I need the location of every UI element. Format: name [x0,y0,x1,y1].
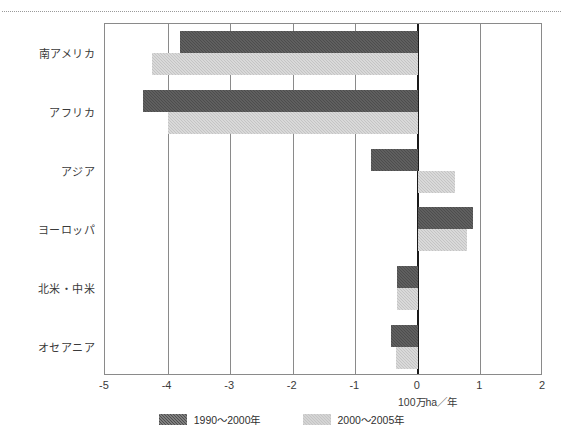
bar [396,347,418,369]
bar [418,207,473,229]
dotted-divider [2,11,561,12]
bar [397,288,418,310]
chart-figure: 100万ha／年 1990〜2000年 2000〜2005年 南アメリカアフリカ… [0,0,563,434]
bar [168,112,418,134]
category-label-1: アフリカ [49,104,95,120]
legend-swatch-1990-2000 [159,414,187,425]
category-label-4: 北米・中米 [38,280,96,296]
gridline--4 [168,24,169,374]
chart-legend: 1990〜2000年 2000〜2005年 [0,412,563,427]
bar [397,266,418,288]
x-tick-label-0: 0 [402,379,432,391]
category-label-5: オセアニア [38,339,96,355]
bar [152,53,418,75]
x-tick-label--3: -3 [214,379,244,391]
bar [391,325,418,347]
legend-swatch-2000-2005 [303,414,331,425]
bar [418,229,467,251]
x-axis-title: 100万ha／年 [398,394,457,409]
bar [371,149,418,171]
bar [180,31,418,53]
x-tick-label-2: 2 [527,379,557,391]
category-label-3: ヨーロッパ [38,221,96,237]
legend-item: 1990〜2000年 [159,412,261,427]
figure-caption [0,0,563,5]
gridline--1 [355,24,356,374]
bar [143,90,418,112]
category-label-0: 南アメリカ [39,45,96,61]
zero-axis-line [417,24,419,374]
bar [418,171,456,193]
x-tick-label--4: -4 [152,379,182,391]
x-tick-label--2: -2 [277,379,307,391]
legend-label: 1990〜2000年 [194,412,261,427]
x-tick-label--5: -5 [89,379,119,391]
x-tick-label--1: -1 [339,379,369,391]
gridline--3 [230,24,231,374]
legend-item: 2000〜2005年 [303,412,405,427]
x-tick-label-1: 1 [464,379,494,391]
legend-label: 2000〜2005年 [338,412,405,427]
gridline-1 [480,24,481,374]
plot-area [104,23,542,375]
category-label-2: アジア [61,163,96,179]
gridline--2 [293,24,294,374]
